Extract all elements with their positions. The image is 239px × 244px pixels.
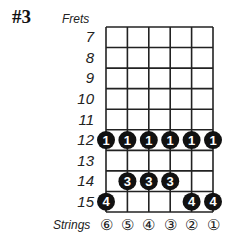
strings-label: Strings bbox=[53, 218, 90, 232]
finger-number: 1 bbox=[145, 133, 152, 148]
finger-number: 3 bbox=[124, 174, 131, 189]
finger-number: 1 bbox=[209, 133, 216, 148]
string-number: ④ bbox=[141, 216, 157, 234]
finger-number: 4 bbox=[102, 194, 110, 209]
finger-number: 1 bbox=[188, 133, 195, 148]
finger-number: 3 bbox=[145, 174, 152, 189]
string-number: ② bbox=[184, 216, 200, 234]
string-number: ① bbox=[205, 216, 221, 234]
fretboard-grid: 111111333444 bbox=[0, 0, 239, 244]
string-number: ⑥ bbox=[98, 216, 114, 234]
finger-number: 1 bbox=[102, 133, 109, 148]
finger-number: 4 bbox=[188, 194, 196, 209]
finger-number: 4 bbox=[209, 194, 217, 209]
finger-number: 3 bbox=[167, 174, 174, 189]
finger-number: 1 bbox=[124, 133, 131, 148]
string-number: ⑤ bbox=[119, 216, 135, 234]
finger-number: 1 bbox=[167, 133, 174, 148]
string-number: ③ bbox=[162, 216, 178, 234]
